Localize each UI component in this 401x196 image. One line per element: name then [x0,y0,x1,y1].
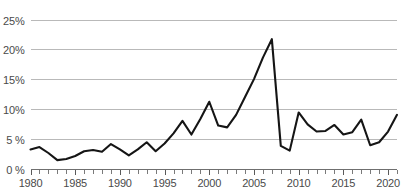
y-tick-label-15: 15% [3,74,25,86]
x-tick-label-2010: 2010 [287,177,311,189]
y-tick-label-10: 10% [3,104,25,116]
x-tick-label-1980: 1980 [19,177,43,189]
x-tick-label-2000: 2000 [197,177,221,189]
x-tick-label-1985: 1985 [63,177,87,189]
y-axis-tick-labels: 25%20%15%10%5 %0 % [3,15,25,176]
gridlines [31,21,398,140]
x-axis [31,169,398,175]
line-chart: 25%20%15%10%5 %0 % 198019851990199520002… [0,0,401,196]
x-tick-label-1995: 1995 [153,177,177,189]
y-tick-label-0: 0 % [6,164,25,176]
series-line-1 [31,39,398,160]
x-axis-tick-labels: 198019851990199520002005201020152020 [19,177,400,189]
x-tick-label-2015: 2015 [332,177,356,189]
x-tick-label-2020: 2020 [376,177,400,189]
y-tick-label-25: 25% [3,15,25,27]
data-series [31,39,398,160]
chart-canvas: 25%20%15%10%5 %0 % 198019851990199520002… [0,0,401,196]
x-tick-label-1990: 1990 [108,177,132,189]
x-tick-label-2005: 2005 [242,177,266,189]
y-tick-label-5: 5 % [6,134,25,146]
y-tick-label-20: 20% [3,44,25,56]
